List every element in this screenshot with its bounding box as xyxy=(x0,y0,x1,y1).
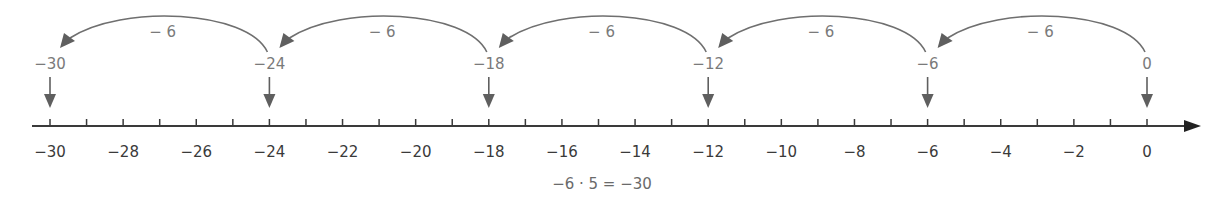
axis xyxy=(32,119,1201,132)
tick-label: −28 xyxy=(107,145,139,160)
down-arrow-icon xyxy=(1141,94,1153,108)
down-arrow-icon xyxy=(922,94,934,108)
marked-point-label: 0 xyxy=(1142,57,1152,72)
jump-label: − 6 xyxy=(807,25,834,40)
jump-label: − 6 xyxy=(588,25,615,40)
tick-label: −24 xyxy=(254,145,286,160)
axis-arrowhead-icon xyxy=(1184,120,1201,132)
jump-arrowhead-icon xyxy=(279,33,294,48)
down-arrow-icon xyxy=(263,94,275,108)
jump-arrowhead-icon xyxy=(499,33,514,48)
tick-label: −4 xyxy=(990,145,1012,160)
jump-arrowhead-icon xyxy=(60,33,75,48)
tick-label: −22 xyxy=(327,145,359,160)
jump-label: − 6 xyxy=(1027,25,1054,40)
tick-label: −16 xyxy=(546,145,578,160)
down-arrow-icon xyxy=(483,94,495,108)
equation-caption: −6 · 5 = −30 xyxy=(552,177,652,192)
tick-label: −30 xyxy=(34,145,66,160)
tick-label: −8 xyxy=(843,145,865,160)
tick-label: −14 xyxy=(619,145,651,160)
tick-label: −10 xyxy=(766,145,798,160)
tick-label: −6 xyxy=(917,145,939,160)
tick-label: −2 xyxy=(1063,145,1085,160)
marked-point-label: −6 xyxy=(917,57,939,72)
marked-point-label: −12 xyxy=(692,57,724,72)
tick-label: −20 xyxy=(400,145,432,160)
number-line-diagram: −30−28−26−24−22−20−18−16−14−12−10−8−6−4−… xyxy=(0,0,1210,207)
down-arrow-icon xyxy=(702,94,714,108)
point-marker-arrows xyxy=(44,77,1153,108)
tick-label: 0 xyxy=(1142,145,1152,160)
marked-point-label: −18 xyxy=(473,57,505,72)
marked-point-label: −24 xyxy=(254,57,286,72)
marked-point-label: −30 xyxy=(34,57,66,72)
jump-label: − 6 xyxy=(149,25,176,40)
down-arrow-icon xyxy=(44,94,56,108)
jump-arrowhead-icon xyxy=(938,33,953,48)
tick-label: −18 xyxy=(473,145,505,160)
jump-arrowhead-icon xyxy=(718,33,733,48)
tick-label: −26 xyxy=(180,145,212,160)
tick-label: −12 xyxy=(692,145,724,160)
jump-label: − 6 xyxy=(369,25,396,40)
